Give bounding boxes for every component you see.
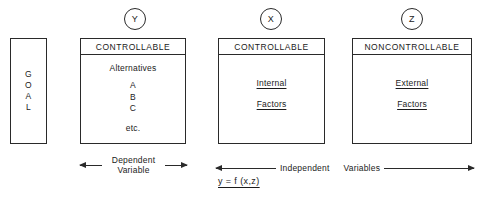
goal-letter-g: G <box>25 69 32 80</box>
dependent-arrow-right-icon <box>165 165 187 166</box>
goal-letter-l: L <box>26 102 31 113</box>
controllable-internal-factors-box: CONTROLLABLE Internal Factors <box>218 38 325 144</box>
x-box-header: CONTROLLABLE <box>219 39 324 55</box>
noncontrollable-external-factors-box: NONCONTROLLABLE External Factors <box>352 38 472 144</box>
y-box-body: Alternatives A B C etc. <box>81 55 185 143</box>
goal-box: G O A L <box>10 38 47 144</box>
alternatives-etc: etc. <box>126 123 141 133</box>
z-box-body: External Factors <box>353 55 471 143</box>
formula-label: y = f (x,z) <box>218 176 260 186</box>
independent-arrow-right-icon <box>384 168 474 169</box>
x-box-body: Internal Factors <box>219 55 324 143</box>
goal-letter-o: O <box>25 80 32 91</box>
internal-factors-line-1: Internal <box>257 78 287 89</box>
independent-arrow-left-icon <box>216 168 276 169</box>
goal-box-label-stack: G O A L <box>25 69 32 113</box>
controllable-alternatives-box: CONTROLLABLE Alternatives A B C etc. <box>80 38 186 144</box>
node-circle-x-label: X <box>268 15 274 24</box>
alternatives-title: Alternatives <box>110 63 157 73</box>
independent-variables-label-1: Independent <box>276 163 339 173</box>
internal-factors-line-2: Factors <box>257 99 287 110</box>
alternative-item-b: B <box>130 92 136 104</box>
node-circle-y-label: Y <box>132 15 138 24</box>
node-circle-x: X <box>260 8 282 30</box>
y-box-header: CONTROLLABLE <box>81 39 185 55</box>
external-factors-line-1: External <box>396 78 429 89</box>
diagram-canvas: Y X Z G O A L CONTROLLABLE Alternatives … <box>0 0 481 197</box>
external-factors-line-2: Factors <box>397 99 427 110</box>
independent-variables-label-2: Variables <box>339 163 384 173</box>
dependent-arrow-left-icon <box>80 165 102 166</box>
dependent-variable-annotation: Dependent Variable <box>80 155 187 175</box>
node-circle-z-label: Z <box>409 15 415 24</box>
goal-letter-a: A <box>25 91 31 102</box>
alternative-item-a: A <box>130 80 136 92</box>
independent-variables-annotation: Independent Variables <box>216 163 474 173</box>
node-circle-z: Z <box>401 8 423 30</box>
dependent-variable-label-line-2: Variable <box>112 165 155 175</box>
node-circle-y: Y <box>124 8 146 30</box>
alternative-item-c: C <box>130 103 136 115</box>
dependent-variable-label: Dependent Variable <box>109 155 158 175</box>
dependent-variable-label-line-1: Dependent <box>112 155 155 165</box>
z-box-header: NONCONTROLLABLE <box>353 39 471 55</box>
